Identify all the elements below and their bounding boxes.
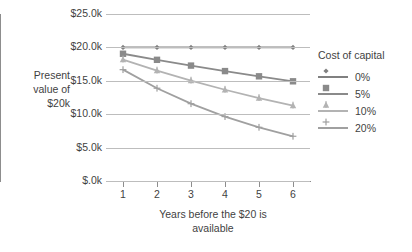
y-axis-tick-label: $15.0k — [40, 74, 102, 86]
x-axis-tick — [259, 182, 260, 187]
y-axis-tick-label: $5.0k — [40, 141, 102, 153]
x-axis-title-line-2: available — [118, 221, 308, 235]
legend-label: 0% — [355, 71, 370, 83]
gridline — [106, 181, 310, 182]
legend: Cost of capital 0%5%10%20% — [318, 49, 410, 136]
x-axis-tick — [123, 182, 124, 187]
legend-title: Cost of capital — [318, 49, 410, 61]
x-axis-title-line-1: Years before the $20 is — [118, 207, 308, 221]
x-axis-tick-label: 3 — [179, 188, 203, 200]
legend-item-20pct[interactable]: 20% — [318, 119, 410, 136]
data-point-cross-marker — [256, 124, 263, 131]
x-axis-tick — [293, 182, 294, 187]
gridline — [106, 47, 310, 48]
legend-swatch-square-icon — [318, 88, 348, 99]
gridline — [106, 14, 310, 15]
x-axis-tick-label: 1 — [111, 188, 135, 200]
data-point-square-marker — [154, 57, 160, 63]
data-point-cross-marker — [323, 119, 330, 126]
y-axis-tick-label: $20.0k — [40, 40, 102, 52]
series-line-20pct — [123, 70, 293, 137]
y-axis-line — [0, 14, 1, 182]
y-axis-tick-label: $10.0k — [40, 107, 102, 119]
legend-label: 20% — [355, 122, 376, 134]
data-point-square-marker — [256, 73, 262, 79]
legend-swatch-diamond-icon — [318, 71, 348, 82]
data-point-cross-marker — [120, 66, 127, 73]
legend-label: 10% — [355, 105, 376, 117]
x-axis-tick-label: 6 — [281, 188, 305, 200]
x-axis-tick-label: 5 — [247, 188, 271, 200]
data-point-cross-marker — [290, 133, 297, 140]
x-axis-tick-label: 2 — [145, 188, 169, 200]
data-point-square-marker — [222, 68, 228, 74]
x-axis-tick — [225, 182, 226, 187]
x-axis-title: Years before the $20 is available — [118, 207, 308, 235]
legend-swatch-star-icon — [318, 105, 348, 116]
legend-label: 5% — [355, 88, 370, 100]
gridline — [106, 114, 310, 115]
data-point-diamond-marker — [323, 68, 328, 73]
data-point-star-marker — [323, 101, 329, 108]
y-axis-tick-label: $.0k — [40, 174, 102, 186]
series-layer — [106, 14, 310, 181]
legend-items: 0%5%10%20% — [318, 68, 410, 136]
y-axis-tick-label: $25.0k — [40, 7, 102, 19]
x-axis-tick-label: 4 — [213, 188, 237, 200]
y-axis-tick-labels: $25.0k$20.0k$15.0k$10.0k$5.0k$.0k — [38, 0, 102, 200]
data-point-square-marker — [188, 62, 194, 68]
data-point-cross-marker — [154, 85, 161, 92]
gridline — [106, 148, 310, 149]
data-point-square-marker — [323, 85, 329, 91]
legend-swatch-cross-icon — [318, 122, 348, 133]
plot-area — [106, 14, 310, 181]
chart-container: Present value of $20k $25.0k$20.0k$15.0k… — [0, 0, 412, 252]
data-point-cross-marker — [188, 100, 195, 107]
x-axis-tick — [191, 182, 192, 187]
x-axis-tick — [157, 182, 158, 187]
gridline — [106, 81, 310, 82]
